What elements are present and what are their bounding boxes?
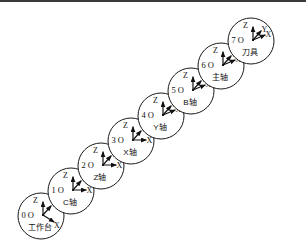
z-axis-label: Z	[183, 71, 188, 80]
component-name-label: Z轴	[94, 172, 107, 182]
z-axis-label: Z	[243, 21, 248, 30]
origin-number-label: 6 O	[201, 60, 214, 70]
component-name-label: B轴	[183, 97, 196, 107]
z-axis-label: Z	[123, 121, 128, 130]
z-axis-label: Z	[63, 171, 68, 180]
origin-number-label: 7 O	[231, 35, 244, 45]
nodes-layer: ZYX0 O工作台ZYX1 OC轴ZYX2 OZ轴ZYX3 OX轴ZYX4 OY…	[18, 18, 274, 239]
component-name-label: C轴	[63, 197, 77, 207]
component-name-label: Y轴	[153, 122, 166, 132]
component-name-label: 刀具	[242, 48, 258, 57]
origin-number-label: 5 O	[171, 85, 184, 95]
origin-number-label: 2 O	[81, 160, 94, 170]
component-name-label: 主轴	[212, 72, 228, 82]
z-axis-label: Z	[153, 96, 158, 105]
origin-number-label: 1 O	[51, 185, 64, 195]
origin-number-label: 4 O	[141, 110, 154, 120]
x-axis-label: X	[54, 221, 60, 230]
z-axis-label: Z	[213, 46, 218, 55]
origin-number-label: 0 O	[21, 210, 34, 220]
z-axis-label: Z	[93, 146, 98, 155]
diagram-canvas: ZYX0 O工作台ZYX1 OC轴ZYX2 OZ轴ZYX3 OX轴ZYX4 OY…	[0, 0, 306, 249]
kinematic-chain-figure: ZYX0 O工作台ZYX1 OC轴ZYX2 OZ轴ZYX3 OX轴ZYX4 OY…	[0, 0, 306, 249]
origin-number-label: 3 O	[111, 135, 124, 145]
x-axis-label: X	[266, 30, 272, 39]
component-name-label: X轴	[123, 147, 136, 157]
frame-node-7[interactable]: ZYX7 O刀具	[228, 18, 274, 64]
component-name-label: 工作台	[28, 222, 52, 232]
z-axis-label: Z	[33, 196, 38, 205]
